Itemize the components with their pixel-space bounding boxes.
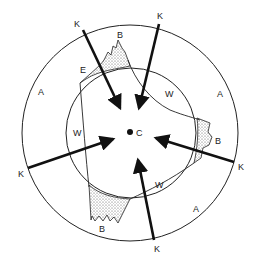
label-k-right: K [238, 162, 244, 172]
arrow-k-left [28, 139, 113, 168]
label-k-top-left: K [74, 19, 80, 29]
label-a-left: A [38, 87, 44, 97]
label-k-top-right: K [157, 11, 163, 21]
stipple-zone-bottom [89, 185, 130, 223]
stipple-zone-right [194, 118, 212, 163]
label-w-top-right: W [165, 89, 174, 99]
label-b-top: B [117, 30, 123, 40]
label-w-left: W [73, 128, 82, 138]
boundary-top-right [128, 60, 200, 120]
label-e: E [80, 65, 86, 75]
label-b-right: B [215, 136, 221, 146]
label-b-bottom: B [99, 224, 105, 234]
label-w-bottom: W [155, 180, 164, 190]
label-a-right: A [217, 89, 223, 99]
arrow-k-top-right [139, 24, 159, 108]
label-a-bottom: A [193, 204, 199, 214]
label-k-left: K [18, 169, 24, 179]
arrow-k-bottom [138, 160, 154, 240]
label-k-bottom: K [154, 244, 160, 254]
center-label: C [136, 128, 143, 138]
concentric-zone-diagram: C K K K K K A A A W W W B B B E [0, 0, 257, 263]
center-point [127, 129, 133, 135]
